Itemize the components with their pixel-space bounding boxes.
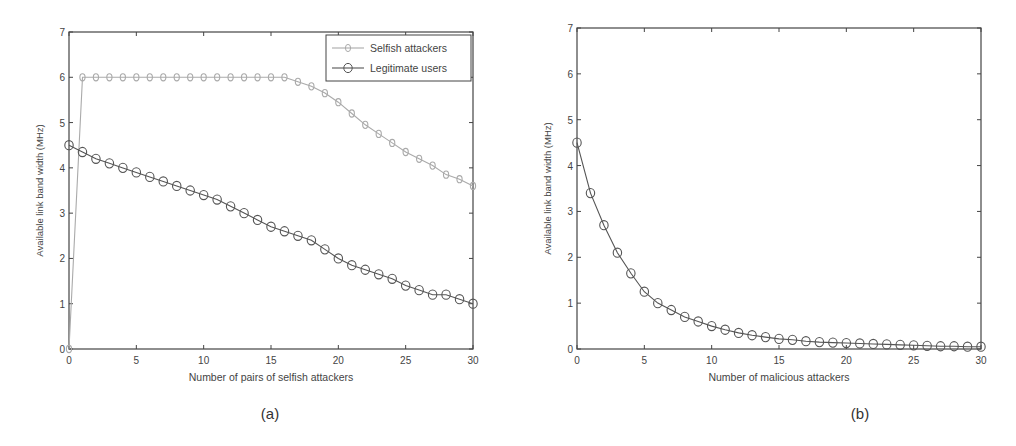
x-tick-label: 25 xyxy=(908,355,920,366)
chart-a: 05101520253001234567Number of pairs of s… xyxy=(0,0,508,446)
chart-a-caption: (a) xyxy=(240,405,300,422)
x-tick-label: 15 xyxy=(773,355,785,366)
x-tick-label: 0 xyxy=(574,355,580,366)
y-tick-label: 5 xyxy=(567,115,573,126)
x-axis-label: Number of pairs of selfish attackers xyxy=(189,371,354,383)
y-tick-label: 4 xyxy=(59,163,65,174)
y-tick-label: 0 xyxy=(567,344,573,355)
y-tick-label: 3 xyxy=(567,206,573,217)
y-tick-label: 7 xyxy=(567,23,573,34)
legend-label: Legitimate users xyxy=(370,62,447,74)
y-tick-label: 6 xyxy=(59,72,65,83)
legend: Selfish attackersLegitimate users xyxy=(326,35,471,81)
y-tick-label: 3 xyxy=(59,208,65,219)
chart-b: 05101520253001234567Number of malicious … xyxy=(508,0,1016,446)
x-tick-label: 30 xyxy=(467,355,479,366)
y-tick-label: 1 xyxy=(567,298,573,309)
chart-b-panel: 05101520253001234567Number of malicious … xyxy=(508,0,1016,446)
series-line xyxy=(69,145,473,304)
legend-label: Selfish attackers xyxy=(370,42,447,54)
plot-area xyxy=(577,28,981,349)
x-tick-label: 30 xyxy=(975,355,987,366)
chart-b-caption: (b) xyxy=(830,405,890,422)
y-tick-label: 5 xyxy=(59,118,65,129)
y-tick-label: 6 xyxy=(567,69,573,80)
y-tick-label: 2 xyxy=(59,253,65,264)
y-tick-label: 2 xyxy=(567,252,573,263)
x-tick-label: 15 xyxy=(265,355,277,366)
y-tick-label: 4 xyxy=(567,161,573,172)
chart-a-panel: 05101520253001234567Number of pairs of s… xyxy=(0,0,508,446)
x-tick-label: 0 xyxy=(66,355,72,366)
x-axis-label: Number of malicious attackers xyxy=(708,371,849,383)
series-line xyxy=(577,143,981,347)
y-tick-label: 0 xyxy=(59,344,65,355)
x-tick-label: 20 xyxy=(841,355,853,366)
x-tick-label: 5 xyxy=(134,355,140,366)
y-tick-label: 1 xyxy=(59,299,65,310)
y-tick-label: 7 xyxy=(59,27,65,38)
x-tick-label: 10 xyxy=(706,355,718,366)
x-tick-label: 10 xyxy=(198,355,210,366)
y-axis-label: Available link band width (MHz) xyxy=(34,124,45,256)
y-axis-label: Available link band width (MHz) xyxy=(542,122,553,254)
x-tick-label: 25 xyxy=(400,355,412,366)
x-tick-label: 20 xyxy=(333,355,345,366)
series-line xyxy=(69,77,473,349)
x-tick-label: 5 xyxy=(642,355,648,366)
